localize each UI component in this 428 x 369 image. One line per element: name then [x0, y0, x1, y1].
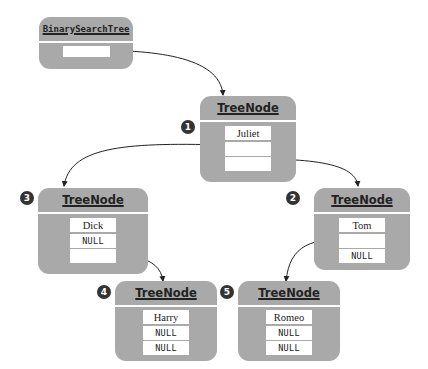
right-pointer-field: NULL [143, 341, 189, 355]
data-field: Dick [70, 218, 116, 232]
tree-node-tom: TreeNode Tom NULL [314, 188, 410, 270]
badge-5: 5 [220, 285, 234, 299]
tree-node-romeo: TreeNode Romeo NULL NULL [238, 281, 340, 361]
left-pointer-field: NULL [70, 234, 116, 248]
tree-node-juliet: TreeNode Juliet [200, 96, 296, 182]
left-pointer-field: NULL [143, 326, 189, 340]
tree-node-harry: TreeNode Harry NULL NULL [115, 281, 217, 361]
root-pointer-field [63, 46, 110, 57]
data-field: Juliet [225, 126, 271, 140]
node-title: TreeNode [62, 193, 123, 207]
badge-1: 1 [181, 120, 195, 134]
data-field: Harry [143, 310, 189, 324]
badge-4: 4 [97, 285, 111, 299]
right-pointer-field [225, 157, 271, 171]
left-pointer-field: NULL [266, 326, 312, 340]
badge-2: 2 [286, 191, 300, 205]
node-title: TreeNode [135, 286, 196, 300]
left-pointer-field [225, 142, 271, 156]
right-pointer-field: NULL [339, 249, 385, 263]
data-field: Tom [339, 218, 385, 232]
node-title: TreeNode [217, 101, 278, 115]
node-title: TreeNode [258, 286, 319, 300]
left-pointer-field [339, 234, 385, 248]
binary-search-tree-box: BinarySearchTree [39, 17, 133, 69]
right-pointer-field [70, 249, 116, 263]
node-title: TreeNode [331, 193, 392, 207]
bst-title: BinarySearchTree [43, 24, 130, 34]
data-field: Romeo [266, 310, 312, 324]
badge-3: 3 [20, 191, 34, 205]
right-pointer-field: NULL [266, 341, 312, 355]
tree-node-dick: TreeNode Dick NULL [38, 188, 148, 274]
